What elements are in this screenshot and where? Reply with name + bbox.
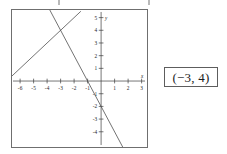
y-axis-label: y [104, 15, 108, 21]
page-edge-artifact-right [148, 0, 150, 5]
x-axis-tick-label: -5 [31, 85, 36, 91]
worksheet-page: -6-5-4-3-2-1123-4-3-2-112345xy (−3, 4) [0, 0, 227, 154]
answer-box[interactable]: (−3, 4) [164, 67, 218, 87]
plot-line-line-2 [50, 10, 146, 147]
x-axis-tick-label: 3 [140, 85, 143, 91]
plot-line-line-1 [12, 11, 81, 76]
x-axis-tick-label: -1 [85, 85, 90, 91]
x-axis-tick-label: -4 [45, 85, 50, 91]
x-axis-label: x [140, 73, 144, 79]
page-edge-artifact-left [58, 0, 60, 5]
coordinate-plane: -6-5-4-3-2-1123-4-3-2-112345xy [12, 10, 147, 147]
y-axis-tick-label: 2 [95, 53, 98, 59]
y-axis-tick-label: -2 [93, 103, 98, 109]
y-axis-tick-label: 3 [95, 40, 98, 46]
solution-coordinate-text: (−3, 4) [173, 71, 210, 84]
y-axis-tick-label: 1 [95, 65, 98, 71]
x-axis-tick-label: 1 [113, 85, 116, 91]
y-axis-tick-label: -4 [93, 129, 98, 135]
x-axis-tick-label: -2 [72, 85, 77, 91]
graph-panel: -6-5-4-3-2-1123-4-3-2-112345xy [11, 9, 148, 148]
x-axis-tick-label: -3 [58, 85, 63, 91]
x-axis-tick-label: 2 [127, 85, 130, 91]
y-axis-tick-label: 4 [95, 27, 98, 33]
x-axis-tick-label: -6 [18, 85, 23, 91]
y-axis-tick-label: 5 [95, 15, 98, 21]
y-axis-tick-label: -3 [93, 116, 98, 122]
